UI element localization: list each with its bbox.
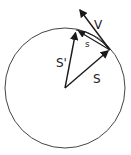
circular-motion-diagram: V s S' S	[0, 0, 131, 155]
label-chord-s: s	[85, 39, 90, 49]
chord-s	[79, 32, 110, 51]
label-s: S	[93, 72, 101, 86]
label-v: V	[94, 18, 103, 32]
label-s-prime: S'	[56, 56, 67, 70]
